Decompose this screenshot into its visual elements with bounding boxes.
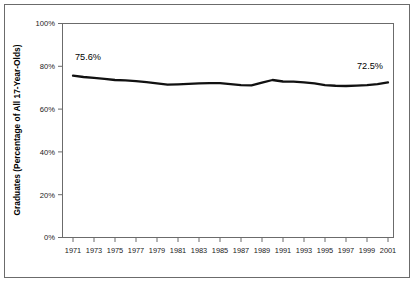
plot-area-border: [63, 24, 394, 238]
x-tick-label-1987: 1987: [233, 246, 249, 255]
x-tick-label-1991: 1991: [275, 246, 291, 255]
x-tick-label-1999: 1999: [359, 246, 375, 255]
x-tick-label-1973: 1973: [86, 246, 102, 255]
line-chart: 100% 80% 60% 40% 20% 0% Graduates (Perce…: [0, 0, 414, 282]
y-tick-label-60: 60%: [40, 105, 55, 114]
y-tick-label-40: 40%: [40, 148, 55, 157]
x-tick-label-1983: 1983: [191, 246, 207, 255]
x-tick-label-1975: 1975: [107, 246, 123, 255]
data-label-end: 72.5%: [357, 61, 383, 71]
x-tick-label-1971: 1971: [65, 246, 81, 255]
y-axis: 100% 80% 60% 40% 20% 0%: [36, 19, 63, 242]
chart-figure: 100% 80% 60% 40% 20% 0% Graduates (Perce…: [0, 0, 414, 282]
y-tick-label-80: 80%: [40, 62, 55, 71]
x-tick-label-1997: 1997: [338, 246, 354, 255]
x-tick-label-1989: 1989: [254, 246, 270, 255]
data-label-start: 75.6%: [75, 52, 101, 62]
x-axis-ticks: [73, 238, 388, 243]
x-tick-label-1995: 1995: [317, 246, 333, 255]
x-tick-label-1985: 1985: [212, 246, 228, 255]
x-tick-label-1979: 1979: [149, 246, 165, 255]
x-tick-label-2001: 2001: [380, 246, 396, 255]
y-tick-label-0: 0%: [44, 233, 55, 242]
x-tick-label-1981: 1981: [170, 246, 186, 255]
y-tick-label-20: 20%: [40, 191, 55, 200]
x-axis-labels: 1971 1973 1975 1977 1979 1981 1983 1985 …: [65, 246, 396, 255]
x-tick-label-1993: 1993: [296, 246, 312, 255]
y-axis-title: Graduates (Percentage of All 17-Year-Old…: [12, 44, 22, 215]
y-tick-label-100: 100%: [36, 19, 56, 28]
data-series-line: [73, 76, 388, 86]
x-tick-label-1977: 1977: [128, 246, 144, 255]
